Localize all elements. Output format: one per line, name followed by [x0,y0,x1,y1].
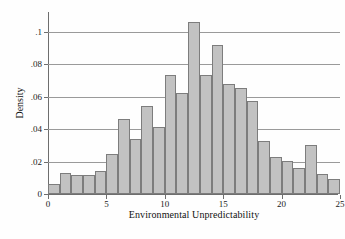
histogram-bar [48,184,60,194]
histogram-bar [282,161,294,194]
histogram-bar [247,101,259,194]
x-axis-tick-label: 20 [277,200,286,209]
histogram-bar [258,141,270,194]
x-axis-tick-label: 10 [160,200,169,209]
histogram-bar [71,175,83,195]
y-axis-tick-label: 0 [38,190,43,199]
histogram-bar [118,119,130,194]
y-axis-tick-label: .04 [31,125,42,134]
y-axis-tick-label: .1 [35,27,42,36]
x-axis-tick-label: 5 [104,200,109,209]
histogram-bar [176,93,188,194]
x-axis-tick-label: 25 [336,200,345,209]
histogram-bar [270,157,282,194]
histogram-bar [317,174,329,194]
histogram-bar [165,75,177,194]
histogram-bar [293,168,305,194]
histogram-bar [130,139,142,194]
histogram-bar [200,75,212,194]
histogram-bar [153,127,165,194]
x-axis-tick-label: 15 [219,200,228,209]
histogram-bar [212,45,224,195]
histogram-bars [48,12,340,194]
y-axis-title: Density [14,87,25,118]
histogram-bar [223,84,235,194]
y-axis-tick-label: .02 [31,157,42,166]
histogram-bar [188,22,200,194]
histogram-figure: Density 0.02.04.06.08.1 0510152025 Envir… [0,0,345,239]
histogram-bar [328,179,340,194]
histogram-bar [305,145,317,194]
histogram-bar [95,171,107,194]
histogram-bar [83,175,95,195]
histogram-bar [235,88,247,194]
histogram-bar [106,154,118,194]
histogram-bar [141,106,153,194]
histogram-bar [60,173,72,194]
y-axis-tick-label: .06 [31,92,42,101]
y-axis-tick-label: .08 [31,60,42,69]
x-axis-title: Environmental Unpredictability [48,209,340,220]
plot-area: 0.02.04.06.08.1 [48,12,340,194]
x-axis-tick-label: 0 [46,200,51,209]
